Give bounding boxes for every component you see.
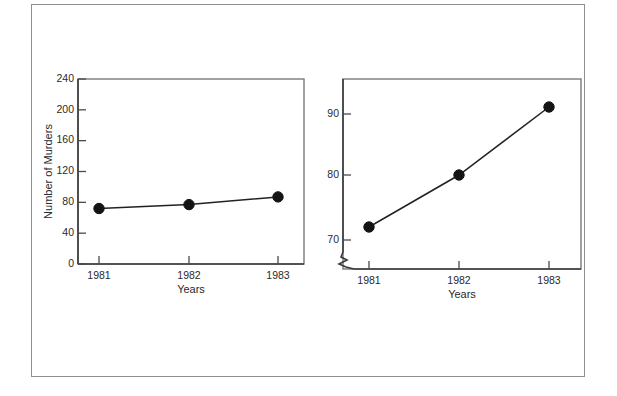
line-chart-left: 240 200 160 120 80 40 0 1981 1982 1983	[32, 5, 322, 378]
y-tick-label: 0	[68, 257, 74, 269]
figure-frame: 240 200 160 120 80 40 0 1981 1982 1983	[31, 4, 585, 377]
y-ticks-left	[78, 79, 86, 264]
x-tick-label: 1983	[266, 269, 290, 281]
x-ticks-left	[99, 256, 278, 264]
x-tick-label: 1982	[177, 269, 201, 281]
line-chart-right: 90 80 70 1981 1982 1983	[322, 5, 586, 378]
y-tick-label: 240	[56, 72, 74, 84]
x-tick-labels-left: 1981 1982 1983	[87, 269, 290, 281]
chart-panel-right: 90 80 70 1981 1982 1983	[322, 5, 586, 376]
y-axis-break-icon	[339, 252, 354, 269]
x-ticks-right	[369, 261, 549, 269]
y-tick-label: 90	[327, 107, 339, 119]
data-point-1983	[544, 102, 554, 112]
data-point-1982	[184, 199, 194, 209]
data-point-1983	[273, 192, 283, 202]
y-tick-label: 80	[62, 195, 74, 207]
y-tick-label: 200	[56, 103, 74, 115]
y-tick-label: 80	[327, 168, 339, 180]
series-markers-left	[94, 192, 283, 214]
x-tick-label: 1982	[447, 274, 471, 286]
x-tick-labels-right: 1981 1982 1983	[357, 274, 561, 286]
x-tick-label: 1981	[357, 274, 381, 286]
x-tick-label: 1983	[537, 274, 561, 286]
y-tick-label: 120	[56, 164, 74, 176]
chart-panel-left: 240 200 160 120 80 40 0 1981 1982 1983	[32, 5, 322, 376]
x-axis-title-right: Years	[448, 288, 476, 300]
x-axis-title-left: Years	[177, 283, 205, 295]
x-tick-label: 1981	[87, 269, 111, 281]
y-ticks-right	[343, 114, 351, 240]
y-axis-title-left: Number of Murders	[42, 124, 54, 219]
y-tick-labels-right: 90 80 70	[327, 107, 339, 245]
plot-area-border-left	[78, 79, 304, 264]
y-tick-label: 70	[327, 233, 339, 245]
data-point-1981	[364, 222, 374, 232]
data-point-1982	[454, 170, 464, 180]
series-line-right	[369, 107, 549, 227]
y-tick-label: 40	[62, 226, 74, 238]
data-point-1981	[94, 203, 104, 213]
y-tick-labels-left: 240 200 160 120 80 40 0	[56, 72, 74, 269]
y-tick-label: 160	[56, 133, 74, 145]
